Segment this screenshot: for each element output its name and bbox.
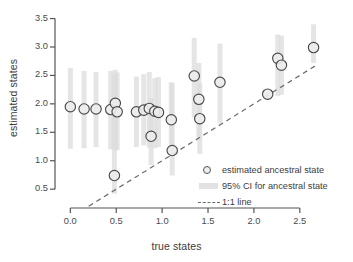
x-tick-label: 0.0 (50, 216, 90, 226)
legend-item-estimated-state: estimated ancestral state (196, 163, 353, 177)
data-point[interactable] (79, 104, 89, 114)
y-axis-label: estimated states (7, 38, 19, 158)
data-point[interactable] (194, 94, 204, 104)
band-marker-icon (196, 180, 222, 193)
figure: 0.51.01.52.02.53.03.50.00.51.01.52.02.5 … (0, 0, 353, 262)
data-point[interactable] (195, 113, 205, 123)
data-point[interactable] (65, 102, 75, 112)
data-point[interactable] (146, 131, 156, 141)
y-tick-label: 2.0 (14, 98, 48, 108)
y-tick-label: 1.5 (14, 126, 48, 136)
dashed-line-marker-icon (196, 196, 222, 209)
legend-label-ci: 95% CI for ancestral state (222, 180, 328, 193)
data-point[interactable] (189, 71, 199, 81)
legend-item-one-to-one-line: 1:1 line (196, 195, 353, 209)
x-tick-label: 2.5 (280, 216, 320, 226)
data-point[interactable] (308, 42, 318, 52)
y-tick-label: 1.0 (14, 155, 48, 165)
x-tick-label: 1.0 (142, 216, 182, 226)
legend-item-ci: 95% CI for ancestral state (196, 179, 353, 193)
data-point[interactable] (91, 104, 101, 114)
legend-label-one-to-one-line: 1:1 line (222, 196, 252, 209)
x-tick-label: 1.5 (188, 216, 228, 226)
y-tick-label: 2.5 (14, 69, 48, 79)
data-point[interactable] (166, 115, 176, 125)
legend-label-estimated-state: estimated ancestral state (222, 164, 324, 177)
x-axis-label: true states (0, 240, 353, 252)
x-tick-label: 2.0 (234, 216, 274, 226)
legend: estimated ancestral state 95% CI for anc… (196, 163, 353, 211)
data-point[interactable] (112, 107, 122, 117)
circle-marker-icon (196, 164, 222, 177)
data-point[interactable] (262, 89, 272, 99)
data-point[interactable] (153, 107, 163, 117)
y-tick-label: 3.5 (14, 13, 48, 23)
data-point[interactable] (276, 60, 286, 70)
data-point[interactable] (215, 77, 225, 87)
data-point[interactable] (167, 145, 177, 155)
x-tick-label: 0.5 (96, 216, 136, 226)
y-tick-label: 3.0 (14, 41, 48, 51)
ci-band (170, 83, 175, 175)
data-point[interactable] (109, 170, 119, 180)
y-tick-label: 0.5 (14, 183, 48, 193)
